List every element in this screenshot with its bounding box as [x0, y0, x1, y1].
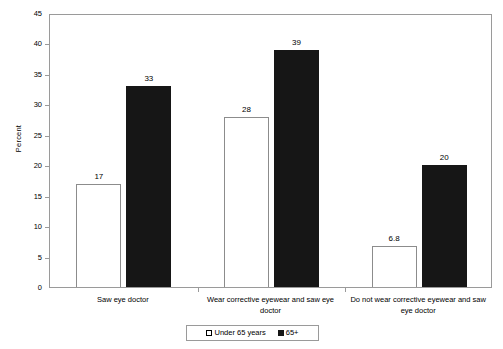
y-axis-tick-label: 45 [0, 9, 47, 19]
bar-value-label: 39 [292, 38, 301, 48]
y-axis-tick-label: 40 [0, 39, 47, 49]
bar-65-plus: 33 [126, 86, 171, 287]
plot-area: 173328396.820 [49, 14, 492, 288]
legend-entry-under-65: Under 65 years [206, 328, 265, 338]
bar-under-65: 6.8 [372, 246, 417, 287]
bar-value-label: 17 [94, 172, 103, 182]
y-axis-tick-label: 35 [0, 70, 47, 80]
y-axis-tick-label: 0 [0, 283, 47, 293]
y-axis-tick-label: 10 [0, 222, 47, 232]
y-axis-tick-label: 25 [0, 131, 47, 141]
bar-chart: Percent 051015202530354045 173328396.820… [0, 0, 503, 349]
y-axis-tick-label: 15 [0, 192, 47, 202]
bar-under-65: 28 [224, 117, 269, 287]
y-axis-tick-label: 30 [0, 100, 47, 110]
bar-value-label: 33 [144, 74, 153, 84]
bar-65-plus: 39 [274, 50, 319, 287]
category-separator-tick [198, 287, 199, 292]
bar-65-plus: 20 [422, 165, 467, 287]
chart-legend: Under 65 years 65+ [186, 325, 319, 341]
black-square-icon [278, 330, 284, 336]
legend-label-65-plus: 65+ [286, 328, 299, 338]
legend-entry-65-plus: 65+ [278, 328, 299, 338]
x-axis-category-label: Do not wear corrective eyewear and saw e… [344, 294, 492, 316]
bar-under-65: 17 [76, 184, 121, 288]
y-axis-tick-label: 20 [0, 161, 47, 171]
legend-label-under-65: Under 65 years [214, 328, 265, 338]
x-axis-category-label: Wear corrective eyewear and saw eye doct… [197, 294, 345, 316]
x-axis-category-label: Saw eye doctor [49, 294, 197, 305]
white-square-icon [206, 330, 212, 336]
bar-value-label: 20 [440, 153, 449, 163]
category-separator-tick [345, 287, 346, 292]
bar-value-label: 28 [242, 105, 251, 115]
y-axis-tick-label: 5 [0, 253, 47, 263]
bar-value-label: 6.8 [389, 234, 400, 244]
